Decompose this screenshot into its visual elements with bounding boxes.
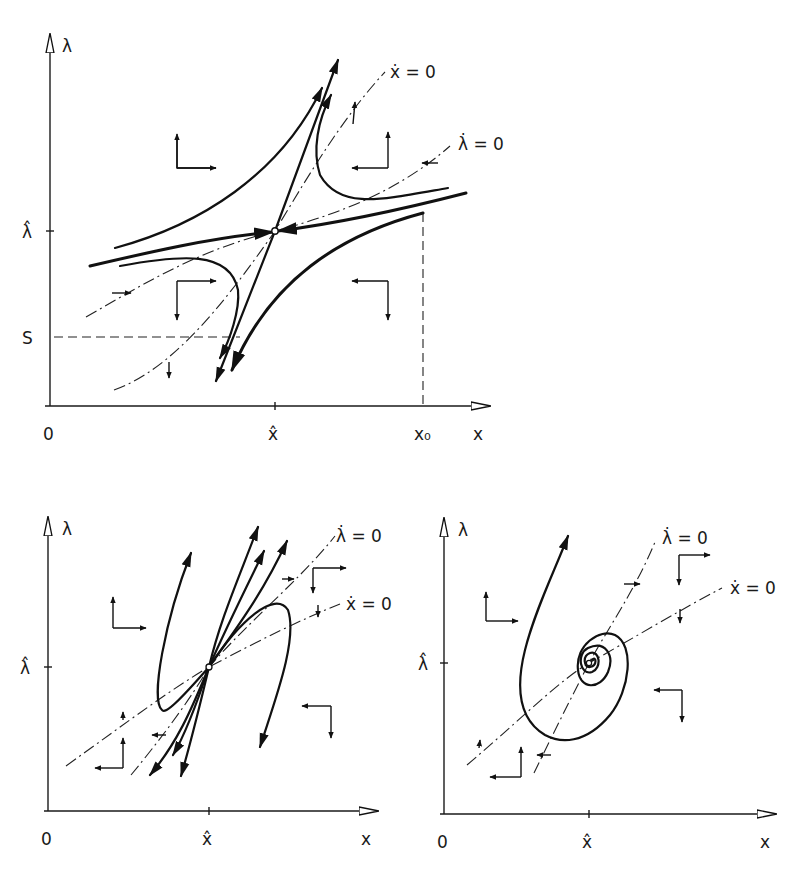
trajectory-upper-left bbox=[115, 88, 322, 248]
trajectory-lower-left bbox=[120, 258, 238, 358]
focus-equilibrium-point bbox=[586, 660, 591, 665]
isocline-tick-up bbox=[479, 740, 480, 748]
x0-label: x₀ bbox=[414, 424, 431, 444]
panel-unstable-focus: λ x 0 x̂ λ̂ ẋ = 0 λ̇ = 0 bbox=[418, 518, 776, 852]
panel-unstable-node: λ x 0 x̂ λ̂ ẋ = 0 λ̇ = 0 bbox=[20, 517, 392, 849]
panel-saddle: λ x 0 x̂ λ̂ S x₀ ẋ = 0 λ̇ = 0 bbox=[22, 34, 504, 444]
trajectory-up-2 bbox=[209, 551, 264, 667]
y-axis-label: λ bbox=[62, 519, 72, 539]
s-label: S bbox=[22, 328, 33, 348]
lambda-hat-label: λ̂ bbox=[418, 652, 428, 674]
saddle-equilibrium-point bbox=[272, 228, 278, 234]
x-dot-zero-isocline bbox=[114, 72, 385, 390]
isocline-tick-up bbox=[353, 102, 355, 124]
trajectory-lower-right bbox=[232, 213, 423, 370]
stable-arm-left bbox=[90, 232, 273, 266]
phase-diagrams: λ x 0 x̂ λ̂ S x₀ ẋ = 0 λ̇ = 0 bbox=[0, 0, 786, 882]
x-axis-label: x bbox=[361, 829, 371, 849]
x-hat-label: x̂ bbox=[268, 424, 278, 444]
lambda-hat-label: λ̂ bbox=[22, 220, 32, 242]
x-dot-zero-isocline bbox=[467, 588, 722, 765]
trajectory-up-1 bbox=[209, 527, 258, 667]
vector-upper-left bbox=[177, 136, 216, 168]
trajectory-upper-right bbox=[316, 95, 448, 199]
x-hat-label: x̂ bbox=[582, 832, 592, 852]
x-hat-label: x̂ bbox=[202, 829, 212, 849]
lambda-dot-label: λ̇ = 0 bbox=[458, 132, 504, 154]
origin-label: 0 bbox=[41, 829, 52, 849]
x-axis-label: x bbox=[473, 424, 483, 444]
origin-label: 0 bbox=[437, 832, 448, 852]
unstable-arm-down bbox=[216, 231, 275, 381]
lambda-dot-label: λ̇ = 0 bbox=[662, 526, 708, 548]
y-axis-label: λ bbox=[458, 520, 468, 540]
spiral-trajectory bbox=[520, 536, 628, 740]
x-dot-label: ẋ = 0 bbox=[730, 578, 776, 598]
origin-label: 0 bbox=[43, 424, 54, 444]
lambda-hat-label: λ̂ bbox=[20, 656, 30, 678]
y-axis-label: λ bbox=[62, 36, 72, 56]
x-axis-label: x bbox=[760, 832, 770, 852]
node-equilibrium-point bbox=[206, 664, 212, 670]
lambda-dot-label: λ̇ = 0 bbox=[336, 524, 382, 546]
x-dot-label: ẋ = 0 bbox=[346, 594, 392, 614]
x-dot-label: ẋ = 0 bbox=[390, 62, 436, 82]
